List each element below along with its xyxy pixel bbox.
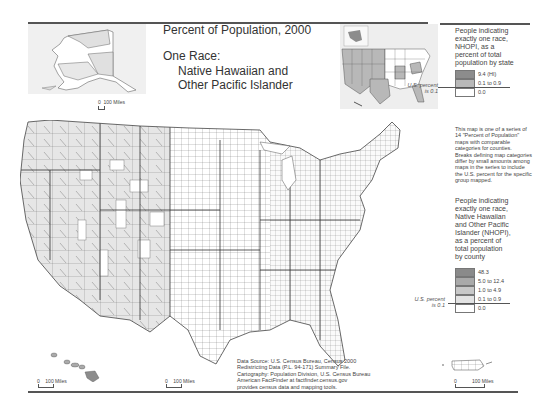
- state-inset-map: [340, 24, 438, 109]
- state-legend-label-zero: 0.0: [478, 89, 486, 95]
- state-legend-swatch-hi: [455, 70, 475, 79]
- map-subtitle-line2: Native Hawaiian and: [178, 64, 288, 78]
- hawaii-scale-bar: [38, 384, 54, 388]
- alaska-scale-label: 0 100 Miles: [98, 99, 125, 105]
- alaska-inset-map: [28, 24, 146, 94]
- puerto-rico-inset-map: [440, 358, 495, 372]
- state-us-percent-line: [438, 87, 510, 88]
- county-legend-label-3: 1.0 to 4.9: [478, 287, 501, 293]
- state-legend-label-hi: 9.4 (HI): [478, 71, 496, 77]
- map-subtitle-line3: Other Pacific Islander: [178, 78, 293, 92]
- series-note: This map is one of a series of 14 "Perce…: [455, 126, 532, 184]
- county-us-percent-line: [448, 303, 510, 304]
- top-rule-right: [440, 23, 530, 25]
- county-legend-swatch-1: [455, 268, 475, 277]
- county-legend-swatch-5: [455, 304, 475, 313]
- state-legend-label-mid: 0.1 to 0.9: [478, 80, 501, 86]
- state-us-percent-note: U.S. percent is 0.1: [398, 82, 438, 94]
- bottom-rule: [28, 391, 518, 393]
- conus-scale-bar: [166, 384, 182, 388]
- county-legend-swatch-3: [455, 286, 475, 295]
- county-legend-label-1: 48.3: [478, 269, 489, 275]
- map-title: Percent of Population, 2000: [163, 23, 311, 37]
- puerto-rico-scale-bar: [455, 384, 485, 388]
- data-source-note: Data Source: U.S. Census Bureau, Census …: [237, 358, 370, 390]
- map-subtitle-one-race: One Race:: [163, 49, 220, 63]
- county-legend-swatch-2: [455, 277, 475, 286]
- county-legend-label-4: 0.1 to 0.9: [478, 296, 501, 302]
- county-legend-heading: People indicating exactly one race, Nati…: [455, 197, 511, 261]
- state-legend-swatch-zero: [455, 88, 475, 97]
- alaska-scale-bar: [98, 106, 105, 110]
- county-legend-label-5: 0.0: [478, 305, 486, 311]
- conus-county-map: [20, 120, 450, 370]
- county-legend-label-2: 5.0 to 12.4: [478, 278, 504, 284]
- state-legend-heading: People indicating exactly one race, NHOP…: [455, 27, 514, 67]
